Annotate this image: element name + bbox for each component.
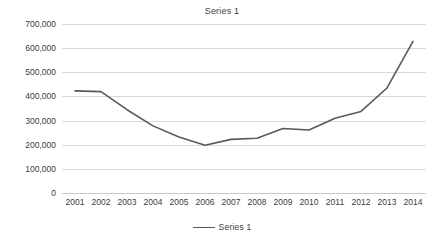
x-axis-tick-labels: 2001200220032004200520062007200820092010… <box>62 197 426 209</box>
y-tick-label: 700,000 <box>0 19 56 29</box>
x-tick-label: 2014 <box>404 197 423 207</box>
y-tick-label: 200,000 <box>0 140 56 150</box>
x-axis-line <box>62 193 426 194</box>
y-tick-label: 600,000 <box>0 43 56 53</box>
x-tick-label: 2008 <box>248 197 267 207</box>
legend-line-swatch-icon <box>193 227 215 228</box>
y-tick-label: 400,000 <box>0 91 56 101</box>
x-tick-label: 2001 <box>66 197 85 207</box>
series-line-series-1 <box>62 24 426 193</box>
x-tick-label: 2007 <box>222 197 241 207</box>
series-polyline <box>75 41 413 145</box>
x-tick-label: 2004 <box>144 197 163 207</box>
x-tick-label: 2011 <box>326 197 344 207</box>
plot-area <box>62 24 426 193</box>
y-tick-label: 500,000 <box>0 67 56 77</box>
y-axis-tick-labels: 0100,000200,000300,000400,000500,000600,… <box>0 24 56 193</box>
y-tick-label: 0 <box>0 188 56 198</box>
x-tick-label: 2010 <box>300 197 319 207</box>
y-tick-label: 300,000 <box>0 116 56 126</box>
x-tick-label: 2005 <box>170 197 189 207</box>
x-tick-label: 2003 <box>118 197 137 207</box>
chart-title: Series 1 <box>0 6 444 16</box>
y-tick-label: 100,000 <box>0 164 56 174</box>
x-tick-label: 2002 <box>92 197 111 207</box>
chart-legend: Series 1 <box>0 222 444 232</box>
x-tick-label: 2013 <box>378 197 397 207</box>
line-chart-figure: Series 1 0100,000200,000300,000400,00050… <box>0 0 444 242</box>
x-tick-label: 2009 <box>274 197 293 207</box>
x-tick-label: 2006 <box>196 197 215 207</box>
x-tick-label: 2012 <box>352 197 371 207</box>
legend-entry-label: Series 1 <box>219 222 252 232</box>
